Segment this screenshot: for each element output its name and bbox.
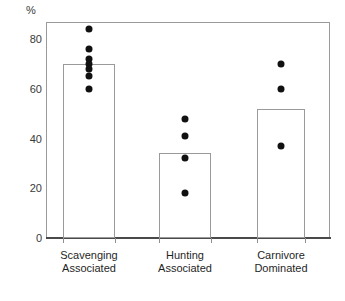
x-tick-mark (159, 238, 160, 243)
x-axis-label-line-1: Carnivore (226, 249, 336, 262)
x-axis-label-line-2: Associated (130, 262, 240, 275)
x-tick-mark (211, 238, 212, 243)
data-point (182, 190, 189, 197)
data-point (182, 133, 189, 140)
x-axis-label-line-2: Dominated (226, 262, 336, 275)
x-tick-mark (305, 238, 306, 243)
data-point (278, 85, 285, 92)
x-axis-label-line-1: Scavenging (34, 249, 144, 262)
x-tick-mark (257, 238, 258, 243)
x-axis-label-carnivore-dominated: Carnivore Dominated (226, 249, 336, 275)
x-axis-label-line-2: Associated (34, 262, 144, 275)
y-tick-label-0: 0 (2, 232, 42, 244)
chart-container: % 0 20 40 60 80 Scavenging Associated Hu… (0, 0, 345, 301)
data-point (86, 65, 93, 72)
y-tick-label-80: 80 (2, 33, 42, 45)
data-point (86, 73, 93, 80)
bar-carnivore-dominated (257, 109, 305, 238)
data-point (182, 115, 189, 122)
x-axis-label-hunting-associated: Hunting Associated (130, 249, 240, 275)
y-tick-label-60: 60 (2, 83, 42, 95)
x-tick-mark (63, 238, 64, 243)
y-tick-label-40: 40 (2, 133, 42, 145)
x-axis-label-scavenging-associated: Scavenging Associated (34, 249, 144, 275)
y-tick-label-20: 20 (2, 182, 42, 194)
data-point (278, 60, 285, 67)
data-point (86, 26, 93, 33)
x-tick-mark (115, 238, 116, 243)
x-axis-label-line-1: Hunting (130, 249, 240, 262)
data-point (86, 85, 93, 92)
data-point (278, 142, 285, 149)
data-point (86, 45, 93, 52)
data-point (182, 155, 189, 162)
